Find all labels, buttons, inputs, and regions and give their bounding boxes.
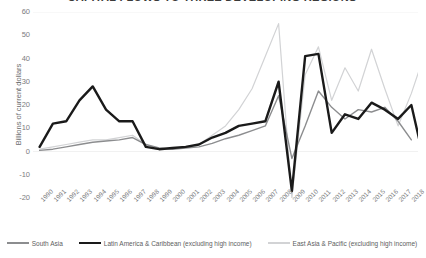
y-axis-ticks: 6050403020100-10-20: [0, 12, 30, 198]
y-tick-label: 60: [4, 8, 30, 16]
series-line: [40, 91, 412, 158]
legend-item[interactable]: East Asia & Pacific (excluding high inco…: [268, 240, 418, 247]
y-tick-label: 30: [4, 78, 30, 86]
y-tick-label: -10: [4, 171, 30, 179]
page-title: CAPITAL FLOWS TO THREE DEVELOPING REGION…: [0, 0, 424, 3]
legend-label: South Asia: [32, 240, 63, 247]
y-tick-label: -20: [4, 194, 30, 202]
y-tick-label: 10: [4, 124, 30, 132]
legend-item[interactable]: South Asia: [7, 240, 63, 247]
x-axis-ticks: 1990199119921993199419951996199719981999…: [33, 198, 418, 228]
legend-item[interactable]: Latin America & Caribbean (excluding hig…: [79, 240, 252, 247]
y-tick-label: 0: [4, 148, 30, 156]
legend-swatch-icon: [268, 242, 290, 243]
legend-label: Latin America & Caribbean (excluding hig…: [104, 240, 252, 247]
y-tick-label: 20: [4, 101, 30, 109]
chart-legend: South AsiaLatin America & Caribbean (exc…: [0, 236, 424, 250]
legend-swatch-icon: [7, 242, 29, 243]
y-tick-label: 50: [4, 31, 30, 39]
y-tick-label: 40: [4, 55, 30, 63]
legend-swatch-icon: [79, 242, 101, 245]
legend-label: East Asia & Pacific (excluding high inco…: [293, 240, 418, 247]
line-chart-svg: [33, 12, 418, 198]
series-canvas: [33, 12, 418, 198]
plot-area: [33, 12, 418, 198]
